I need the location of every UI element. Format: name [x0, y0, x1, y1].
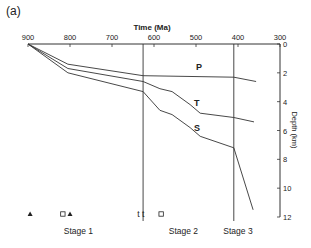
x-tick-label: 400 — [232, 33, 245, 42]
y-tick-label: 0 — [283, 40, 287, 49]
y-tick-label: 6 — [283, 127, 287, 136]
curve-p — [28, 44, 256, 82]
burial-history-chart: (a) Time (Ma) 900800700600500400300 0246… — [0, 0, 311, 248]
stage-label: Stage 2 — [169, 226, 199, 236]
x-axis: 900800700600500400300 — [22, 33, 287, 47]
panel-label: (a) — [6, 4, 21, 18]
curve-t — [28, 44, 254, 122]
square-marker-icon — [159, 212, 163, 216]
y-tick-label: 8 — [283, 155, 287, 164]
x-tick-label: 500 — [190, 33, 203, 42]
stage-label: Stage 1 — [64, 226, 94, 236]
t-marker: t — [142, 209, 145, 219]
curve-s — [28, 44, 253, 210]
curve-label-t: T — [194, 98, 200, 108]
x-tick-label: 800 — [64, 33, 77, 42]
x-axis-label: Time (Ma) — [133, 23, 171, 32]
y-axis-label: Depth (km) — [290, 111, 299, 149]
stage-label: Stage 3 — [223, 226, 253, 236]
triangle-marker-icon — [68, 212, 73, 217]
y-tick-label: 12 — [283, 213, 291, 222]
square-marker-icon — [61, 212, 65, 216]
t-marker: t — [137, 209, 140, 219]
y-tick-label: 2 — [283, 69, 287, 78]
x-tick-label: 600 — [148, 33, 161, 42]
curve-label-p: P — [196, 62, 202, 72]
triangle-marker-icon — [28, 212, 33, 217]
x-tick-label: 700 — [106, 33, 119, 42]
stage-boundaries — [143, 44, 234, 221]
x-tick-label: 900 — [22, 33, 35, 42]
y-axis: 024681012 — [277, 40, 291, 222]
event-markers: tt — [28, 209, 164, 219]
stage-labels: Stage 1Stage 2Stage 3 — [64, 226, 253, 236]
y-tick-label: 4 — [283, 98, 287, 107]
y-tick-label: 10 — [283, 184, 291, 193]
curves: PTS — [28, 44, 256, 210]
curve-label-s: S — [194, 123, 200, 133]
